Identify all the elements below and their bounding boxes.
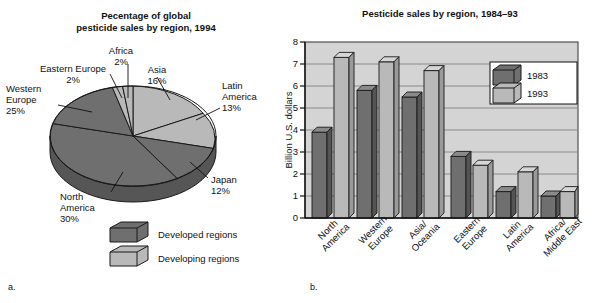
pie-chart <box>50 86 216 202</box>
label-africa-pct: 2% <box>114 56 128 67</box>
bar-legend-label-1993: 1993 <box>527 88 548 99</box>
label-north-america-name2: America <box>60 202 96 213</box>
ytick-2: 2 <box>293 168 298 179</box>
bar-1993-africa-middle-east[interactable] <box>560 187 578 218</box>
bar-legend-label-1983: 1983 <box>527 70 548 81</box>
bar-group-africa-middle-east <box>541 187 578 218</box>
bar-1993-western-europe[interactable] <box>379 57 399 218</box>
figure-svg: Pecentage of global pesticide sales by r… <box>0 0 595 303</box>
bar-1983-western-europe[interactable] <box>357 85 377 218</box>
panel-a-letter: a. <box>8 282 16 292</box>
label-asia-name: Asia <box>148 64 167 75</box>
bar-legend: 1983 1993 <box>490 62 577 104</box>
label-africa-name: Africa <box>109 45 134 56</box>
label-western-europe-pct: 25% <box>6 105 26 116</box>
bar-1993-eastern-europe[interactable] <box>473 160 493 218</box>
label-latin-america-name2: America <box>222 91 258 102</box>
bar-1983-latin-america[interactable] <box>496 187 516 218</box>
label-north-america-pct: 30% <box>60 213 80 224</box>
ytick-3: 3 <box>293 146 298 157</box>
label-japan-name: Japan <box>211 174 237 185</box>
bar-ytick-labels: 0 1 2 3 4 5 6 7 8 <box>293 36 298 223</box>
bar-1983-asia-oceania[interactable] <box>402 92 422 218</box>
label-latin-america-name1: Latin <box>222 80 243 91</box>
bar-1983-africa-middle-east[interactable] <box>541 191 561 218</box>
pie-title-line2: pesticide sales by region, 1994 <box>76 22 216 33</box>
ytick-5: 5 <box>293 102 298 113</box>
bar-1983-north-america[interactable] <box>312 127 332 218</box>
label-western-europe-name1: Western <box>6 83 41 94</box>
ytick-7: 7 <box>293 58 298 69</box>
ytick-8: 8 <box>293 36 298 47</box>
pie-legend-label-developed: Developed regions <box>158 229 237 240</box>
panel-b-letter: b. <box>310 282 318 292</box>
bar-1993-latin-america[interactable] <box>518 167 538 218</box>
pie-title-line1: Pecentage of global <box>101 10 191 21</box>
label-latin-america-pct: 13% <box>222 102 242 113</box>
bar-1983-eastern-europe[interactable] <box>451 151 471 218</box>
bar-1993-north-america[interactable] <box>334 52 354 218</box>
label-asia-pct: 16% <box>147 75 167 86</box>
label-eastern-europe-name: Eastern Europe <box>40 63 106 74</box>
label-western-europe-name2: Europe <box>6 94 37 105</box>
bar-1993-asia-oceania[interactable] <box>424 66 444 218</box>
bar-title: Pesticide sales by region, 1984–93 <box>362 8 518 19</box>
label-north-america-name1: North <box>60 191 83 202</box>
ytick-0: 0 <box>293 212 298 223</box>
pie-legend-label-developing: Developing regions <box>158 253 240 264</box>
ytick-6: 6 <box>293 80 298 91</box>
label-japan-pct: 12% <box>211 185 231 196</box>
figure-root: Pecentage of global pesticide sales by r… <box>0 0 595 303</box>
ytick-4: 4 <box>293 124 298 135</box>
ytick-1: 1 <box>293 190 298 201</box>
label-eastern-europe-pct: 2% <box>66 74 80 85</box>
